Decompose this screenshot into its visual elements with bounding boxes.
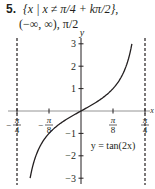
y-tick-label: 1	[71, 83, 76, 94]
y-tick-label: −2	[65, 150, 76, 161]
x-tick-label: π4	[141, 115, 149, 135]
x-axis-label: x	[149, 106, 154, 115]
minus-sign: −	[38, 120, 43, 130]
minus-sign: −	[6, 120, 11, 130]
x-tick-denominator: 8	[111, 125, 116, 135]
x-tick-label: π4−	[6, 115, 21, 135]
x-tick-numerator: π	[47, 115, 52, 125]
x-tick-numerator: π	[15, 115, 20, 125]
tan-graph: xy321−1−2−3π4−π8−π8π4y = tan(2x)	[0, 0, 155, 189]
y-tick-label: −3	[65, 173, 76, 184]
x-tick-numerator: π	[143, 115, 148, 125]
x-tick-numerator: π	[111, 115, 116, 125]
x-tick-denominator: 4	[15, 125, 20, 135]
x-tick-label: π8	[109, 115, 117, 135]
y-tick-label: 3	[71, 38, 76, 49]
x-tick-denominator: 4	[143, 125, 148, 135]
y-axis-label: y	[79, 27, 85, 38]
y-tick-label: −1	[65, 128, 76, 139]
y-tick-label: 2	[71, 61, 76, 72]
curve-annotation: y = tan(2x)	[91, 140, 136, 152]
